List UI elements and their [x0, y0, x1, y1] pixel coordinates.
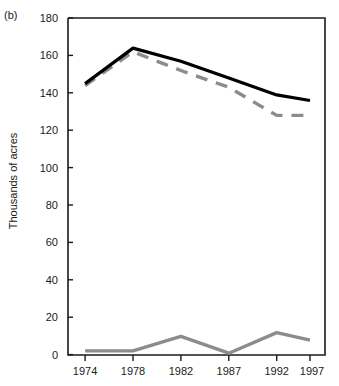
x-tick-label: 1987: [217, 365, 241, 377]
x-tick-label: 1974: [73, 365, 97, 377]
x-tick-label: 1992: [264, 365, 288, 377]
x-axis-tick-labels: 1974 1978 1982 1987 1992 1997: [0, 0, 339, 386]
figure-panel-b: (b) Thousands of acres 180 160 140 120 1…: [0, 0, 339, 386]
x-tick-label: 1997: [300, 365, 324, 377]
x-tick-label: 1978: [121, 365, 145, 377]
x-tick-label: 1982: [169, 365, 193, 377]
